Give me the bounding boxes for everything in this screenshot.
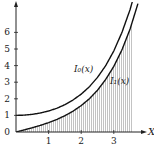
y-tick-label: 2 — [4, 94, 10, 104]
x-tick-label: 2 — [78, 136, 84, 146]
y-tick-label: 1 — [4, 110, 10, 120]
curve-label-i1: I₁(x) — [109, 76, 130, 86]
y-tick-label: 3 — [4, 77, 10, 87]
y-tick-label: 6 — [4, 27, 10, 37]
x-axis-label: X — [147, 126, 154, 137]
x-axis-arrow — [141, 130, 147, 134]
y-tick-label: 5 — [4, 44, 10, 54]
y-tick-label: 4 — [4, 61, 10, 71]
y-axis-arrow — [14, 1, 18, 7]
x-tick-label: 1 — [46, 136, 52, 146]
bessel-chart: X 1230123456 I₀(x) I₁(x) — [0, 0, 154, 155]
curve-label-i0: I₀(x) — [73, 64, 94, 74]
x-tick-label: 3 — [111, 136, 117, 146]
y-tick-label: 0 — [4, 127, 10, 137]
